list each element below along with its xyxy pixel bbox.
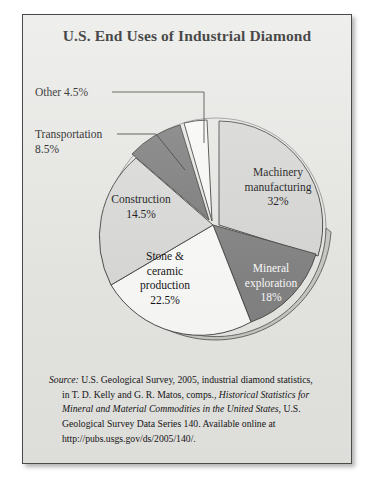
source-line-4: Geological Survey Data Series 140. Avail… bbox=[49, 417, 335, 432]
callout-other: Other 4.5% bbox=[35, 85, 88, 100]
source-line-1: Source: U.S. Geological Survey, 2005, in… bbox=[49, 373, 335, 388]
source-line-1-text: U.S. Geological Survey, 2005, industrial… bbox=[79, 374, 313, 385]
callout-transportation-value: 8.5% bbox=[35, 143, 59, 155]
slice-label-mineral: Mineral exploration 18% bbox=[219, 261, 323, 305]
figure-panel: U.S. End Uses of Industrial Diamond bbox=[22, 14, 352, 464]
figure-root: U.S. End Uses of Industrial Diamond bbox=[0, 0, 372, 482]
source-line-5: http://pubs.usgs.gov/ds/2005/140/. bbox=[49, 432, 335, 447]
callout-other-label: Other 4.5% bbox=[35, 86, 88, 98]
source-note: Source: U.S. Geological Survey, 2005, in… bbox=[49, 373, 335, 447]
slice-label-stone: Stone & ceramic production 22.5% bbox=[117, 249, 213, 308]
callout-transportation-label: Transportation bbox=[35, 128, 102, 140]
callout-transportation: Transportation 8.5% bbox=[35, 127, 102, 157]
source-line-3: Mineral and Material Commodities in the … bbox=[49, 402, 335, 417]
slice-label-machinery: Machinery manufacturing 32% bbox=[223, 165, 333, 209]
source-line-2: in T. D. Kelly and G. R. Matos, comps., … bbox=[49, 388, 335, 403]
source-lead: Source: bbox=[49, 374, 79, 385]
slice-label-construction: Construction 14.5% bbox=[89, 192, 193, 221]
